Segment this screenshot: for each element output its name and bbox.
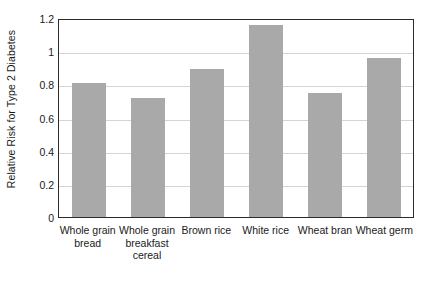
y-axis-tick-labels: 00.20.40.60.811.2: [22, 19, 54, 218]
bar-slot: [177, 20, 236, 217]
y-tick-label: 0.8: [39, 80, 54, 91]
x-tick-label: Whole grain breakfast cereal: [117, 224, 176, 262]
bar[interactable]: [367, 58, 401, 217]
y-tick-label: 1: [48, 47, 54, 58]
y-tick-label: 0.2: [39, 180, 54, 191]
y-axis-title: Relative Risk for Type 2 Diabetes: [0, 0, 22, 218]
y-tick-label: 0.4: [39, 146, 54, 157]
y-tick-label: 0.6: [39, 113, 54, 124]
bar-slot: [295, 20, 354, 217]
y-tick-label: 0: [48, 213, 54, 224]
bar-slot: [59, 20, 118, 217]
bar[interactable]: [308, 93, 342, 217]
x-tick-label: Wheat bran: [295, 224, 354, 262]
x-tick-label: Wheat germ: [355, 224, 414, 262]
x-tick-label: White rice: [236, 224, 295, 262]
bar[interactable]: [249, 25, 283, 217]
x-tick-label: Brown rice: [177, 224, 236, 262]
plot-area: [58, 19, 414, 218]
bar-slot: [118, 20, 177, 217]
bar[interactable]: [190, 69, 224, 217]
bar-slot: [354, 20, 413, 217]
bars-group: [59, 20, 413, 217]
y-tick-label: 1.2: [39, 14, 54, 25]
bar-chart: Relative Risk for Type 2 Diabetes 00.20.…: [0, 0, 432, 284]
x-axis-tick-labels: Whole grain breadWhole grain breakfast c…: [58, 224, 414, 262]
x-tick-label: Whole grain bread: [58, 224, 117, 262]
bar-slot: [236, 20, 295, 217]
bar[interactable]: [72, 83, 106, 217]
bar[interactable]: [131, 98, 165, 217]
